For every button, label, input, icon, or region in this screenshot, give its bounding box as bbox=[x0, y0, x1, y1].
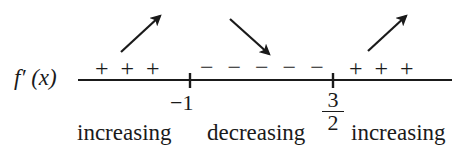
critical-point-label-three-halves: 3 2 bbox=[322, 90, 344, 133]
arrow-increasing-icon bbox=[368, 16, 406, 51]
sign-positive-right: + + + bbox=[349, 56, 417, 80]
function-label: f′ (x) bbox=[14, 66, 57, 89]
behavior-label-left: increasing bbox=[77, 121, 172, 144]
sign-positive-left: + + + bbox=[95, 56, 163, 80]
sign-negative-middle: − − − − − bbox=[200, 55, 328, 79]
critical-point-label-minus-one: −1 bbox=[170, 92, 193, 114]
arrow-decreasing-icon bbox=[230, 19, 269, 54]
fraction-numerator: 3 bbox=[322, 90, 344, 110]
arrow-increasing-icon bbox=[121, 16, 160, 52]
fraction-denominator: 2 bbox=[322, 113, 344, 133]
sign-chart-diagram: f′ (x) + + + − − − − − + + + −1 3 2 incr… bbox=[0, 0, 463, 154]
behavior-label-middle: decreasing bbox=[207, 121, 305, 144]
behavior-label-right: increasing bbox=[351, 121, 446, 144]
